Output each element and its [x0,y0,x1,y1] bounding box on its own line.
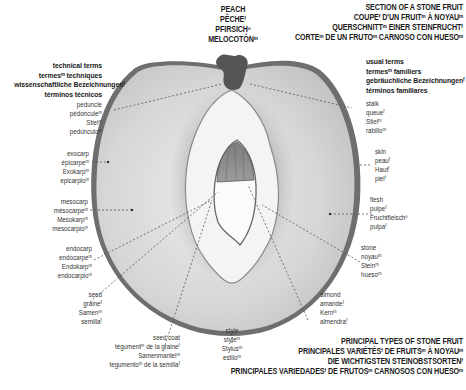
label-almond-en: almond [320,290,387,299]
principal-types-es: PRINCIPALES VARIEDADESᶠ DE FRUTOSᵐ CARNO… [222,366,463,376]
label-flesh: flesh pulpeᶠ Fruchtfleischⁿ pulpaᶠ [370,195,446,231]
technical-terms-en: technical terms [14,61,102,71]
label-seed: seed graineᶠ Samenᵐ semillaᶠ [16,290,102,326]
label-mesocarp-de: Mesokarpᵐ [14,215,88,224]
label-skin-fr: peauᶠ [375,156,442,165]
technical-terms-es: términos técnicos [14,90,102,100]
section-title-es: CORTEᵐ DE UN FRUTOᵐ CARNOSO CON HUESOᵐ [257,32,463,42]
label-stalk-en: stalk [366,99,433,108]
label-mesocarp-fr: mésocarpeᵐ [14,206,88,215]
label-almond-de: Kernᵐ [320,308,387,317]
label-almond: almond amandeᶠ Kernᵐ almendraᶠ [320,290,387,326]
principal-types-de: DIE WICHTIGSTEN STEINOBSTSORTENᶠ [222,356,463,366]
fruit-title-fr: PÊCHEᶠ [205,14,262,24]
label-seed-coat: seed coat tégumentᵐ de la graineᶠ Samenm… [79,333,180,369]
label-seed-fr: graineᶠ [16,299,102,308]
technical-terms-fr: termesᵐ techniques [14,71,102,81]
section-title-en: SECTION OF A STONE FRUIT [257,2,463,12]
label-exocarp-fr: épicarpeᵐ [14,158,89,167]
label-peduncle: peduncle pédonculeᵐ Stielᵐ pedúnculoᵐ [16,100,102,136]
label-skin-de: Hautᶠ [375,165,442,174]
label-skin: skin peauᶠ Hautᶠ pielᶠ [375,147,442,183]
principal-types-en: PRINCIPAL TYPES OF STONE FRUIT [222,336,463,346]
label-peduncle-fr: pédonculeᵐ [16,109,102,118]
usual-terms-es: términos familiares [366,86,452,96]
label-seed-coat-fr: tégumentᵐ de la graineᶠ [79,342,180,351]
usual-terms-en: usual terms [366,57,452,67]
label-stalk-es: rabilloᵐ [366,126,433,135]
label-stone-es: huesoᵐ [361,270,428,279]
label-almond-fr: amandeᶠ [320,299,387,308]
usual-terms-fr: termesᵐ familiers [366,67,452,77]
label-skin-en: skin [375,147,442,156]
principal-types-fr: PRINCIPALES VARIÉTÉSᶠ DE FRUITSᵐ À NOYAU… [222,346,463,356]
label-seed-coat-es: tegumentoᵐ de la semillaᶠ [79,360,180,369]
label-endocarp: endocarp endocarpeᵐ Endokarpᵐ endocarpio… [15,244,92,280]
label-almond-es: almendraᶠ [320,317,387,326]
label-seed-en: seed [16,290,102,299]
label-stone: stone noyauᵐ Steinᵐ huesoᵐ [361,243,428,279]
principal-types-title: PRINCIPAL TYPES OF STONE FRUIT PRINCIPAL… [222,336,463,376]
technical-terms-header: technical terms termesᵐ techniques wisse… [14,61,102,99]
label-seed-es: semillaᶠ [16,317,102,326]
label-peduncle-en: peduncle [16,100,102,109]
label-mesocarp-en: mesocarp [14,197,88,206]
label-stone-fr: noyauᵐ [361,252,428,261]
section-title-fr: COUPEᶠ D'UN FRUITᵐ À NOYAUᵐ [257,12,463,22]
label-mesocarp: mesocarp mésocarpeᵐ Mesokarpᵐ mesocarpio… [14,197,88,233]
label-stone-en: stone [361,243,428,252]
label-seed-coat-de: Samenmantelᵐ [79,351,180,360]
label-exocarp-en: exocarp [14,149,89,158]
fruit-title-es: MELOCOTÓNᵐ [205,34,262,44]
usual-terms-header: usual terms termesᵐ familiers gebräuchli… [366,57,452,95]
section-title: SECTION OF A STONE FRUIT COUPEᶠ D'UN FRU… [257,2,463,42]
label-seed-de: Samenᵐ [16,308,102,317]
label-style-en: style [207,326,257,335]
section-title-de: QUERSCHNITTᵐ EINER STEINFRUCHTᶠ [257,22,463,32]
label-endocarp-en: endocarp [15,244,92,253]
label-stalk-de: Stielᵐ [366,117,433,126]
label-exocarp-es: epicarpioᵐ [14,176,89,185]
label-flesh-en: flesh [370,195,446,204]
label-endocarp-de: Endokarpᵐ [15,262,92,271]
usual-terms-de: gebräuchliche Bezeichnungenᶠ [366,76,452,86]
fruit-title-de: PFIRSICHⁿ [205,24,262,34]
label-flesh-fr: pulpeᶠ [370,204,446,213]
label-stalk: stalk queueᶠ Stielᵐ rabilloᵐ [366,99,433,135]
label-stalk-fr: queueᶠ [366,108,433,117]
technical-terms-de: wissenschaftliche Bezeichnungenᶠ [14,80,102,90]
label-peduncle-de: Stielᵐ [16,118,102,127]
label-flesh-de: Fruchtfleischⁿ [370,213,446,222]
label-exocarp-de: Exokarpᵐ [14,167,89,176]
label-endocarp-es: endocarpioᵐ [15,271,92,280]
label-peduncle-es: pedúnculoᵐ [16,127,102,136]
label-mesocarp-es: mesocarpioᵐ [14,224,88,233]
label-seed-coat-en: seed coat [79,333,180,342]
fruit-title-en: PEACH [205,4,262,14]
label-flesh-es: pulpaᶠ [370,222,446,231]
fruit-title: PEACH PÊCHEᶠ PFIRSICHⁿ MELOCOTÓNᵐ [205,4,262,44]
label-endocarp-fr: endocarpeᵐ [15,253,92,262]
label-skin-es: pielᶠ [375,174,442,183]
label-stone-de: Steinᵐ [361,261,428,270]
label-exocarp: exocarp épicarpeᵐ Exokarpᵐ epicarpioᵐ [14,149,89,185]
